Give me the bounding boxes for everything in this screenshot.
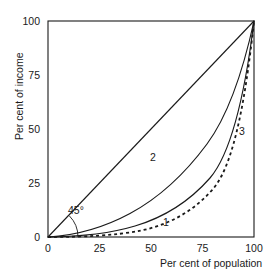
plot-canvas	[0, 0, 276, 274]
y-tick-label-100: 100	[8, 16, 40, 27]
x-tick-label-100: 100	[234, 243, 274, 254]
x-axis-title: Per cent of population	[160, 258, 262, 269]
x-tick-label-25: 25	[80, 243, 120, 254]
x-tick-label-50: 50	[131, 243, 171, 254]
curve-label-1: 1	[163, 217, 169, 228]
lorenz-curve-figure: 100 75 50 25 0 0 25 50 75 100 Per cent o…	[0, 0, 276, 274]
y-tick-label-0: 0	[8, 232, 40, 243]
curve-label-2: 2	[150, 152, 156, 163]
x-tick-label-0: 0	[28, 243, 68, 254]
x-tick-label-75: 75	[183, 243, 223, 254]
curve-label-3: 3	[239, 126, 245, 137]
y-tick-label-25: 25	[8, 178, 40, 189]
y-axis-title: Per cent of income	[14, 52, 25, 140]
angle-label-45deg: 45°	[68, 205, 84, 216]
